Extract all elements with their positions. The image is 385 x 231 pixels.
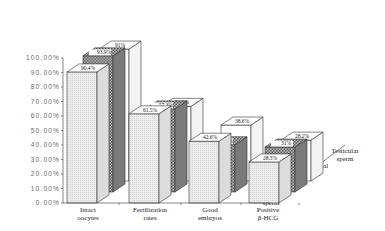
chart-3d-bar: 0.00%10.00%20.00%30.00%40.00%50.00%60.00… (0, 0, 385, 231)
y-tick-label: 80.00% (31, 83, 60, 90)
bar-value-label: 93.9% (97, 49, 112, 55)
bar-value-label: 90.4% (81, 65, 96, 71)
x-category-label: Positive (257, 206, 280, 214)
y-tick-label: 50.00% (31, 127, 60, 134)
bar-value-label: 42.6% (203, 134, 218, 140)
bar: 61.5% (129, 106, 171, 203)
bar-value-label: 61.5% (143, 107, 158, 113)
y-tick-label: 30.00% (31, 156, 60, 163)
y-tick-label: 60.00% (31, 112, 60, 119)
bar-value-label: 31% (281, 140, 292, 146)
x-category-label: rates (143, 214, 156, 222)
bar: 28.3% (249, 154, 291, 203)
x-category-label: Good (202, 206, 218, 214)
y-tick-label: 10.00% (31, 185, 60, 192)
y-tick-label: 70.00% (31, 98, 60, 105)
bar-value-label: 28.2% (295, 133, 310, 139)
y-tick-label: 90.00% (31, 69, 60, 76)
bar-value-label: 28.3% (263, 155, 278, 161)
x-category-label: embryos (198, 214, 222, 222)
bars: 91%51.5%38.6%28.2%93.9%57.3%32.6%31%90.4… (67, 41, 323, 203)
y-tick-label: 40.00% (31, 141, 60, 148)
y-tick-label: 100.00% (26, 54, 60, 61)
series-label: Testicular (331, 147, 359, 155)
bar: 42.6% (189, 133, 231, 203)
y-tick-label: 20.00% (31, 170, 60, 177)
y-axis: 0.00%10.00%20.00%30.00%40.00%50.00%60.00… (26, 54, 63, 206)
bar-value-label: 38.6% (235, 118, 250, 124)
y-tick-label: 0.00% (36, 199, 60, 206)
bar: 90.4% (67, 64, 109, 203)
bar-value-label: 91% (115, 42, 126, 48)
series-label: sperm (336, 155, 354, 163)
x-category-label: Intact (80, 206, 96, 214)
x-category-label: β-HCG (258, 214, 279, 222)
x-axis: IntactoocytesFertilizationratesGoodembry… (63, 203, 299, 222)
x-category-label: Fertilization (133, 206, 168, 214)
x-category-label: oocytes (77, 214, 99, 222)
